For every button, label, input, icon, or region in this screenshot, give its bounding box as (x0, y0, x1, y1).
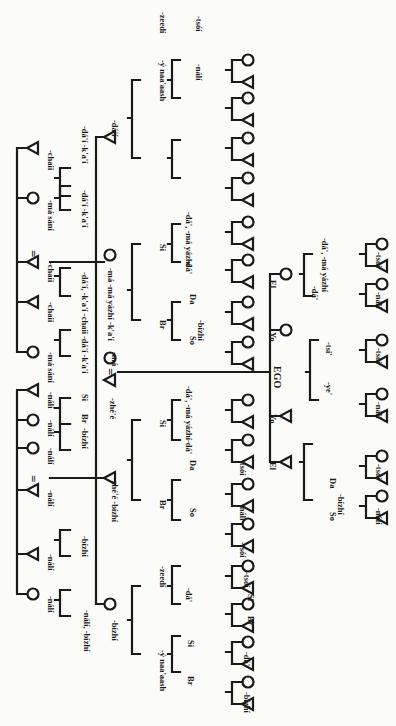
kin-term-label: -dá'í (110, 120, 120, 137)
relation-abbrev-label: Yo (268, 414, 278, 423)
kin-term-label: -nálí, -bízhí (82, 610, 92, 652)
kin-term-label: -tsi' (324, 342, 334, 356)
female-circle-icon (243, 337, 254, 348)
male-triangle-icon (242, 238, 253, 250)
female-circle-icon (243, 133, 254, 144)
male-triangle-icon (242, 358, 253, 370)
female-circle-icon (243, 217, 254, 228)
kin-term-label: -dá'í, -k'a'í -chaii (80, 272, 90, 335)
kin-term-label: -nálí (46, 420, 56, 437)
kin-term-label: -chaii (46, 150, 56, 171)
kin-term-label: -dá' (184, 588, 194, 602)
female-circle-icon (243, 435, 254, 446)
sibling-pair (226, 337, 254, 371)
kin-term-label: -chaii (46, 302, 56, 323)
female-circle-icon (377, 239, 388, 250)
female-circle-icon (377, 491, 388, 502)
male-triangle-icon (242, 76, 253, 88)
male-triangle-icon (242, 416, 253, 428)
female-circle-icon (377, 335, 388, 346)
kin-term-label: -ye' (324, 382, 334, 395)
marriage-sign: = (26, 250, 41, 257)
kin-term-label: -dá'í -k'a'í (80, 336, 90, 374)
kin-term-label: -chaii (46, 262, 56, 283)
kin-term-label: -ý naa'aash (158, 60, 168, 102)
relation-abbrev-label: Si (80, 394, 90, 402)
relation-abbrev-label: Br (158, 500, 168, 510)
male-triangle-icon (242, 154, 253, 166)
sibling-pair (226, 395, 254, 429)
female-circle-icon (243, 637, 254, 648)
female-circle-icon (105, 599, 116, 610)
kin-term-label: -tsóí (194, 16, 204, 32)
male-triangle-icon (242, 114, 253, 126)
kin-term-label: -dá' (310, 286, 320, 300)
kin-term-label: -zhé'é -bízhí (110, 478, 120, 523)
kinship-tree: -chaii-má sání-dá'í -k'a'í-dá'í -k'a'í-c… (0, 0, 396, 726)
male-triangle-icon (27, 296, 38, 308)
male-triangle-icon (280, 456, 291, 468)
relation-abbrev-label: Br (158, 320, 168, 330)
female-circle-icon (28, 193, 39, 204)
female-circle-icon (243, 479, 254, 490)
relation-abbrev-label: El (268, 462, 278, 471)
kin-term-label: -má -má yázhí -k'a'í (106, 268, 116, 342)
kin-term-label: -nálí (238, 504, 248, 521)
marriage-sign: = (26, 475, 41, 482)
kin-term-label: -má (110, 352, 120, 367)
female-circle-icon (281, 325, 292, 336)
kin-term-label: -dá' (184, 260, 194, 274)
kin-term-label: -dá' (184, 440, 194, 454)
female-circle-icon (377, 279, 388, 290)
ego-label: EGO (272, 366, 283, 388)
kin-term-label: -bízhí (242, 692, 252, 713)
male-triangle-icon (280, 410, 291, 422)
female-circle-icon (243, 93, 254, 104)
relation-abbrev-label: Si (246, 594, 256, 602)
kin-term-label: -tsóí (238, 460, 248, 476)
kin-term-label: -dá', -má yázhí (184, 386, 194, 441)
kinship-diagram: -chaii-má sání-dá'í -k'a'í-dá'í -k'a'í-c… (0, 0, 396, 726)
grandchild-pairs (226, 55, 388, 711)
kin-term-label: -nálí (194, 64, 204, 81)
relation-abbrev-label: Da (188, 294, 198, 305)
kin-term-label: -nálí (46, 392, 56, 409)
kin-term-label: -dá' (242, 652, 252, 666)
female-circle-icon (243, 395, 254, 406)
relation-abbrev-label: So (188, 336, 198, 345)
female-circle-icon (28, 589, 39, 600)
sibling-pair (226, 297, 254, 331)
female-circle-icon (243, 255, 254, 266)
relation-abbrev-label: El (268, 280, 278, 289)
female-circle-icon (281, 269, 292, 280)
female-circle-icon (243, 173, 254, 184)
kin-term-label: -dá'í -k'a'í (80, 126, 90, 164)
kin-term-label: -tsóí (374, 252, 384, 268)
marriage-sign: = (103, 368, 118, 375)
kin-term-label: -bízhí (110, 620, 120, 641)
kin-term-label: -nálí (374, 292, 384, 309)
sibling-pair (226, 173, 254, 207)
relation-abbrev-label: Si (186, 640, 196, 648)
sibling-pair (226, 255, 254, 289)
kin-term-label: -dá', -má yázhí (320, 238, 330, 293)
relation-abbrev-label: Da (328, 478, 338, 489)
female-circle-icon (105, 250, 116, 261)
sibling-pair (226, 55, 254, 89)
female-circle-icon (243, 561, 254, 572)
kin-term-label: -zeedí (158, 12, 168, 34)
female-circle-icon (243, 55, 254, 66)
kin-term-label: -tsóí (238, 542, 248, 558)
kin-term-label: -nálí (46, 596, 56, 613)
female-circle-icon (28, 347, 39, 358)
male-triangle-icon (27, 256, 38, 268)
relation-abbrev-label: Br (80, 414, 90, 424)
male-triangle-icon (27, 548, 38, 560)
male-triangle-icon (27, 384, 38, 396)
female-circle-icon (243, 297, 254, 308)
relation-abbrev-label: So (188, 508, 198, 517)
relation-abbrev-label: Br (246, 616, 256, 626)
kin-term-label: -nálí (374, 508, 384, 525)
female-circle-icon (377, 389, 388, 400)
kin-term-label: -tsóí (242, 572, 252, 588)
